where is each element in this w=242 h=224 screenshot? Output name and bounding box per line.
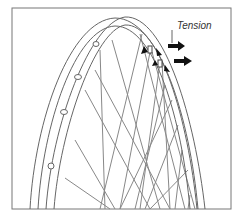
- tension-label: Tension: [177, 20, 212, 31]
- diagram-frame: [12, 8, 231, 209]
- wheel-tension-diagram: Tension: [0, 0, 242, 224]
- diagram-canvas: Tension: [0, 0, 242, 224]
